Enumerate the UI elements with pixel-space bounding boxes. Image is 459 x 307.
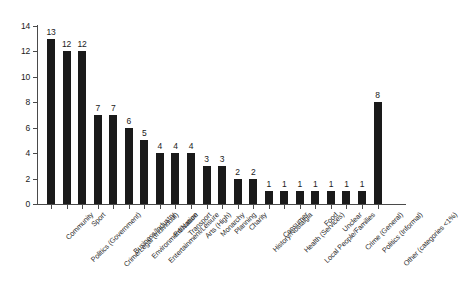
y-axis-tick-label: 10 [0, 73, 30, 82]
bar-value-label: 3 [210, 155, 234, 164]
bar [203, 166, 211, 204]
x-axis-tick [362, 205, 363, 209]
x-axis-tick [284, 205, 285, 209]
x-axis-tick [331, 205, 332, 209]
y-axis-tick-label: 8 [0, 98, 30, 107]
bar [327, 191, 335, 204]
bar [47, 39, 55, 204]
y-axis-tick [33, 179, 37, 180]
bar-value-label: 7 [101, 104, 125, 113]
bars-container [38, 26, 406, 204]
x-axis-tick [98, 205, 99, 209]
x-axis-tick [238, 205, 239, 209]
y-axis-tick [33, 77, 37, 78]
bar-value-label: 1 [350, 180, 374, 189]
x-axis-tick [300, 205, 301, 209]
x-axis-tick [175, 205, 176, 209]
x-axis-tick [129, 205, 130, 209]
x-axis-tick [82, 205, 83, 209]
bar-value-label: 13 [39, 28, 63, 37]
y-axis-tick-label: 14 [0, 22, 30, 31]
x-axis-tick [346, 205, 347, 209]
y-axis-tick-label: 0 [0, 200, 30, 209]
y-axis-tick-label: 12 [0, 47, 30, 56]
bar [94, 115, 102, 204]
x-axis-tick [144, 205, 145, 209]
x-axis-tick [207, 205, 208, 209]
bar-value-label: 12 [70, 40, 94, 49]
x-axis-tick [191, 205, 192, 209]
y-axis-tick [33, 26, 37, 27]
y-axis-tick-label: 4 [0, 149, 30, 158]
bar [156, 153, 164, 204]
bar [296, 191, 304, 204]
bar [265, 191, 273, 204]
bar-value-label: 5 [132, 129, 156, 138]
bar [63, 51, 71, 204]
y-axis-tick [33, 102, 37, 103]
y-axis-tick-label: 2 [0, 175, 30, 184]
x-axis-tick [113, 205, 114, 209]
bar [358, 191, 366, 204]
x-axis-category-label: Community [64, 211, 94, 241]
x-axis-tick [378, 205, 379, 209]
bar-value-label: 2 [241, 168, 265, 177]
x-axis-tick [51, 205, 52, 209]
y-axis-tick [33, 128, 37, 129]
bar [234, 179, 242, 204]
y-axis-tick [33, 153, 37, 154]
x-axis-category-label-text: Community [64, 211, 94, 241]
y-axis-tick [33, 204, 37, 205]
bar [171, 153, 179, 204]
x-axis-tick [269, 205, 270, 209]
bar [280, 191, 288, 204]
bar-value-label: 6 [117, 117, 141, 126]
bar [125, 128, 133, 204]
x-axis-tick [222, 205, 223, 209]
bar [311, 191, 319, 204]
bar [374, 102, 382, 204]
y-axis-tick [33, 51, 37, 52]
bar [78, 51, 86, 204]
bar [342, 191, 350, 204]
x-axis-tick [315, 205, 316, 209]
x-axis-tick [67, 205, 68, 209]
bar [109, 115, 117, 204]
bar-value-label: 4 [179, 142, 203, 151]
y-axis-tick-label: 6 [0, 124, 30, 133]
x-axis-tick [160, 205, 161, 209]
x-axis-tick [253, 205, 254, 209]
bar-value-label: 8 [366, 91, 390, 100]
